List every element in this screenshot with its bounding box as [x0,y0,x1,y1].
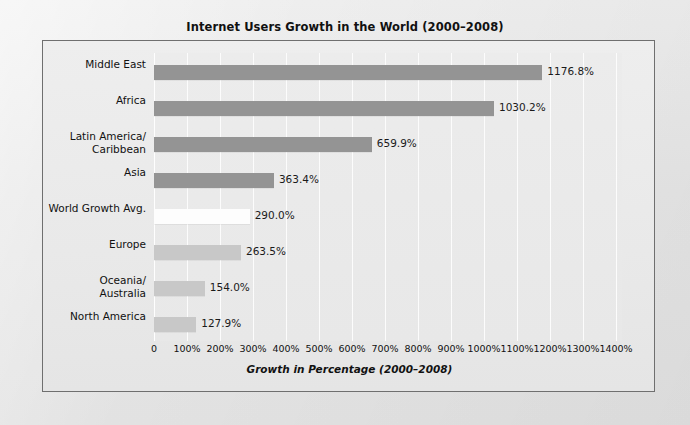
bar-value-label: 1030.2% [499,100,546,115]
x-tick-label: 700% [371,343,398,354]
x-tick-label: 300% [239,343,266,354]
x-tick-label: 900% [437,343,464,354]
x-tick-label: 0 [151,343,157,354]
bar-value-label: 127.9% [201,316,241,331]
bar [154,281,205,296]
x-axis-ticks: 0100%200%300%400%500%600%700%800%900%100… [154,343,634,359]
x-axis-label: Growth in Percentage (2000–2008) [43,363,656,375]
bar-value-label: 1176.8% [547,64,594,79]
bar-rows: Middle East1176.8%Africa1030.2%Latin Ame… [154,53,622,341]
bar [154,173,274,188]
x-tick-label: 1300% [566,343,599,354]
plot-area: Middle East1176.8%Africa1030.2%Latin Ame… [154,53,622,341]
x-tick-label: 1400% [599,343,632,354]
category-label: Africa [16,94,146,107]
category-label: Asia [16,166,146,179]
bar-row: Latin America/ Caribbean659.9% [154,127,622,163]
chart-title: Internet Users Growth in the World (2000… [0,20,690,34]
category-label: Middle East [16,58,146,71]
category-label: Europe [16,238,146,251]
bar-value-label: 363.4% [279,172,319,187]
x-tick-label: 1200% [533,343,566,354]
bar-value-label: 659.9% [377,136,417,151]
x-tick-label: 800% [404,343,431,354]
bar-row: Europe263.5% [154,235,622,271]
bar-row: Asia363.4% [154,163,622,199]
x-tick-label: 1100% [500,343,533,354]
bar-row: Africa1030.2% [154,91,622,127]
x-tick-label: 500% [305,343,332,354]
x-tick-label: 400% [272,343,299,354]
bar [154,137,372,152]
x-tick-label: 200% [206,343,233,354]
bar-row: World Growth Avg.290.0% [154,199,622,235]
bar-value-label: 154.0% [210,280,250,295]
bar-row: Middle East1176.8% [154,55,622,91]
x-tick-label: 1000% [467,343,500,354]
bar [154,245,241,260]
category-label: World Growth Avg. [16,202,146,215]
category-label: Latin America/ Caribbean [16,130,146,156]
bar [154,317,196,332]
x-tick-label: 100% [173,343,200,354]
bar-row: Oceania/ Australia154.0% [154,271,622,307]
bar-row: North America127.9% [154,307,622,343]
bar [154,209,250,224]
bar [154,101,494,116]
bar [154,65,542,80]
bar-value-label: 263.5% [246,244,286,259]
bar-value-label: 290.0% [255,208,295,223]
x-tick-label: 600% [338,343,365,354]
category-label: Oceania/ Australia [16,274,146,300]
category-label: North America [16,310,146,323]
chart-figure-frame: Middle East1176.8%Africa1030.2%Latin Ame… [42,40,655,392]
